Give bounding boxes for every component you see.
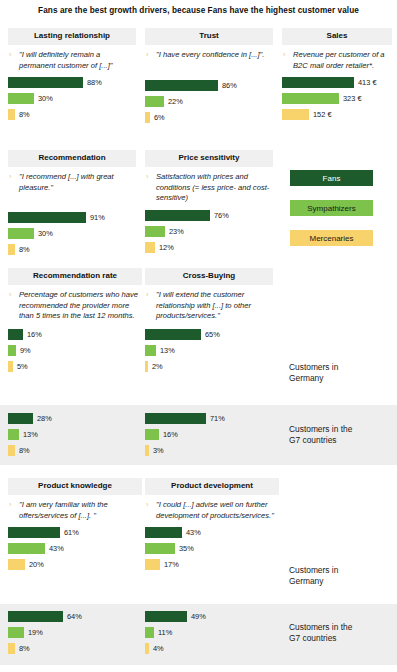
bar-value-mercenaries: 8% [19,245,30,254]
panel-description-lasting-relationship: › "I will definitely remain a permanent … [8,50,136,72]
chevron-right-icon: › [283,50,285,61]
panel-price-sensitivity: Price sensitivity › Satisfaction with pr… [145,150,273,258]
bar-row-mercenaries: 8% [8,109,136,120]
bar-value-sympathizers: 13% [160,346,175,355]
bar-fans [8,77,83,88]
chevron-right-icon: › [9,290,11,301]
chevron-right-icon: › [9,172,11,183]
description-text: Satisfaction with prices and conditions … [156,172,269,203]
bar-row-sympathizers: 30% [8,228,136,239]
bar-mercenaries [145,643,149,654]
bar-row-fans: 86% [145,80,273,91]
bar-row-sympathizers: 11% [145,627,279,638]
bar-value-fans: 86% [222,81,237,90]
bar-row-mercenaries: 20% [8,559,142,570]
bar-row-sympathizers: 19% [8,627,142,638]
panel-description-trust: › "I have every confidence in [...]". [145,50,273,61]
bar-group-product-knowledge-g7: 64% 19% 8% [8,611,142,659]
bar-fans [145,413,206,424]
bar-value-fans: 28% [37,414,52,423]
bar-value-sympathizers: 22% [168,97,183,106]
bar-sympathizers [8,627,24,638]
bar-mercenaries [8,643,15,654]
bar-value-mercenaries: 3% [153,446,164,455]
panel-title-recommendation: Recommendation [8,150,136,167]
description-text: "I have every confidence in [...]". [156,50,264,59]
bar-fans [145,80,218,91]
bar-row-fans: 91% [8,212,136,223]
bar-sympathizers [145,226,165,237]
bar-sympathizers [8,543,45,554]
bar-row-sympathizers: 323 € [282,93,392,104]
bar-sympathizers [8,429,19,440]
bar-mercenaries [145,361,148,372]
bar-row-fans: 43% [145,527,279,538]
panel-trust: Trust › "I have every confidence in [...… [145,28,273,128]
panel-description-price-sensitivity: › Satisfaction with prices and condition… [145,172,273,204]
bar-mercenaries [8,361,13,372]
bar-value-fans: 413 € [358,78,377,87]
bar-mercenaries [282,109,309,120]
bar-row-mercenaries: 8% [8,244,136,255]
bar-group-trust: 86% 22% 6% [145,80,273,123]
bar-value-mercenaries: 5% [17,362,28,371]
description-text: "I could [...] advise well on further de… [156,500,274,520]
bar-row-mercenaries: 8% [8,643,142,654]
bar-value-mercenaries: 8% [19,110,30,119]
description-text: "I am very familiar with the offers/serv… [19,500,108,520]
bar-sympathizers [282,93,339,104]
panel-title-cross-buying: Cross-Buying [145,268,273,285]
chevron-right-icon: › [9,50,11,61]
bar-row-sympathizers: 9% [8,345,142,356]
chevron-right-icon: › [146,500,148,511]
bar-mercenaries [8,244,15,255]
bar-value-sympathizers: 16% [163,430,178,439]
panel-lasting-relationship: Lasting relationship › "I will definitel… [8,28,136,125]
bar-row-sympathizers: 13% [8,429,142,440]
caption-customers-g7-2: Customers in the G7 countries [289,622,352,645]
bar-row-mercenaries: 6% [145,112,273,123]
bar-value-mercenaries: 4% [153,644,164,653]
panel-title-sales: Sales [282,28,392,45]
description-text: Revenue per customer of a B2C mail order… [293,50,385,70]
bar-group-recommendation-rate-germany: 16% 9% 5% [8,329,142,372]
bar-mercenaries [8,445,15,456]
bar-group-lasting-relationship: 88% 30% 8% [8,77,136,120]
bar-row-fans: 88% [8,77,136,88]
panel-description-recommendation-rate: › Percentage of customers who have recom… [8,290,142,322]
bar-fans [145,210,210,221]
bar-mercenaries [8,559,25,570]
bar-row-fans: 49% [145,611,279,622]
bar-mercenaries [145,445,149,456]
bar-row-sympathizers: 16% [145,429,273,440]
bar-row-fans: 28% [8,413,142,424]
bar-sympathizers [145,543,175,554]
legend-label-fans: Fans [323,174,341,183]
bar-value-mercenaries: 6% [154,113,165,122]
bar-group-recommendation: 91% 30% 8% [8,212,136,255]
bar-fans [8,611,63,622]
bar-value-sympathizers: 30% [38,94,53,103]
panel-sales: Sales › Revenue per customer of a B2C ma… [282,28,392,125]
bar-value-sympathizers: 19% [28,628,43,637]
bar-fans [145,527,182,538]
caption-customers-germany-1: Customers in Germany [289,362,338,385]
page-title: Fans are the best growth drivers, becaus… [0,6,397,15]
bar-row-mercenaries: 5% [8,361,142,372]
panel-title-product-development: Product development [145,478,279,495]
panel-description-recommendation: › "I recommend [...] with great pleasure… [8,172,136,194]
panel-description-cross-buying: › "I will extend the customer relationsh… [145,290,273,322]
bar-fans [282,77,354,88]
bar-row-fans: 65% [145,329,273,340]
bar-value-fans: 91% [90,213,105,222]
bar-sympathizers [8,228,34,239]
bar-value-mercenaries: 8% [19,644,30,653]
bar-value-fans: 64% [67,612,82,621]
bar-value-sympathizers: 23% [169,227,184,236]
bar-value-sympathizers: 13% [23,430,38,439]
bar-row-sympathizers: 43% [8,543,142,554]
bar-fans [8,212,86,223]
bar-group-product-development-germany: 43% 35% 17% [145,527,279,570]
bar-sympathizers [145,96,164,107]
legend-label-mercenaries: Mercenaries [309,234,353,243]
